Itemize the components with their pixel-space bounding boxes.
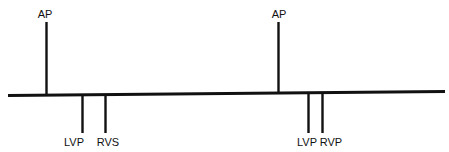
event-label-rvs-1: RVS [97,136,119,148]
event-markers-group: APLVPRVSAPLVPRVP [38,8,343,148]
timing-diagram-canvas: APLVPRVSAPLVPRVP [0,0,449,152]
pacing-timing-diagram: APLVPRVSAPLVPRVP [0,0,449,152]
event-label-lvp-2: LVP [297,136,317,148]
event-label-ap-2: AP [272,8,287,20]
timeline-baseline-group [8,92,445,96]
event-label-ap-1: AP [38,8,53,20]
event-label-rvp-2: RVP [320,136,342,148]
timeline-baseline [8,92,445,96]
event-label-lvp-1: LVP [64,136,84,148]
